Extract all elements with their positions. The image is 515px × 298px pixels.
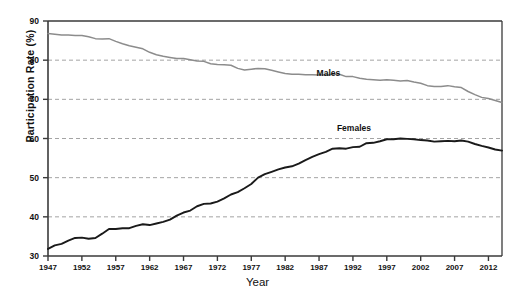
series-label-males: Males: [317, 68, 341, 78]
y-tick-label-70: 70: [15, 94, 39, 104]
y-tick-label-30: 30: [15, 251, 39, 261]
x-tick-label-2012: 2012: [468, 263, 508, 272]
y-tick-label-50: 50: [15, 173, 39, 183]
y-tick-label-80: 80: [15, 55, 39, 65]
y-tick-label-90: 90: [15, 16, 39, 26]
x-axis-title: Year: [0, 276, 515, 288]
gridlines: [48, 60, 502, 217]
plot-area: [0, 0, 515, 298]
series-label-females: Females: [337, 123, 371, 133]
participation-rate-chart: Participation Rate (%) Year 304050607080…: [0, 0, 515, 298]
y-axis-title: Participation Rate (%): [24, 0, 36, 186]
y-tick-label-40: 40: [15, 212, 39, 222]
y-tick-label-60: 60: [15, 134, 39, 144]
